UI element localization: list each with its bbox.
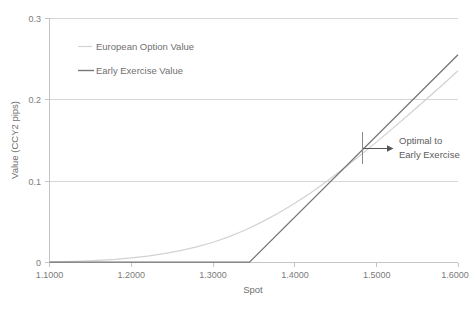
y-tick-label-0.3: 0.3 xyxy=(28,14,41,24)
y-tick-label-0: 0 xyxy=(36,258,41,268)
y-tickmarks xyxy=(45,19,49,263)
x-tick-labels: 1.1000 1.2000 1.3000 1.4000 1.5000 1.600… xyxy=(36,270,469,280)
y-axis-title: Value (CCY2 pips) xyxy=(9,101,20,179)
annotation-text-line-1: Optimal to xyxy=(399,135,442,146)
annotation-optimal-early-exercise: Optimal to Early Exercise xyxy=(363,132,460,164)
option-value-chart: 0.3 0.2 0.1 0 1.1000 1.2000 1.3000 1.400… xyxy=(0,0,475,309)
chart-legend: European Option Value Early Exercise Val… xyxy=(78,41,194,76)
x-tickmarks xyxy=(50,263,459,268)
x-tick-label-1.5000: 1.5000 xyxy=(363,270,391,280)
annotation-text-line-2: Early Exercise xyxy=(399,149,460,160)
x-tick-label-1.4000: 1.4000 xyxy=(281,270,309,280)
y-tick-label-0.1: 0.1 xyxy=(28,177,41,187)
annotation-arrow-head xyxy=(387,145,394,151)
x-axis-title: Spot xyxy=(243,284,263,295)
page-caption-sliver xyxy=(6,305,469,309)
chart-container: 0.3 0.2 0.1 0 1.1000 1.2000 1.3000 1.400… xyxy=(0,0,475,309)
x-tick-label-1.1000: 1.1000 xyxy=(36,270,64,280)
y-tick-labels: 0.3 0.2 0.1 0 xyxy=(28,14,41,268)
legend-label-early-exercise-value: Early Exercise Value xyxy=(96,65,183,76)
x-tick-label-1.6000: 1.6000 xyxy=(441,270,469,280)
series-line-early-exercise-value xyxy=(50,55,459,262)
x-tick-label-1.3000: 1.3000 xyxy=(199,270,227,280)
legend-label-european-option-value: European Option Value xyxy=(96,41,194,52)
y-tick-label-0.2: 0.2 xyxy=(28,95,41,105)
x-tick-label-1.2000: 1.2000 xyxy=(118,270,146,280)
